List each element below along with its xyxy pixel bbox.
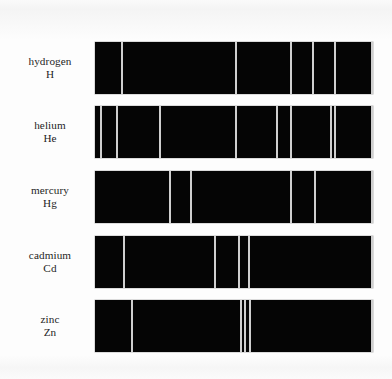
- spectral-line-hydrogen-5: [334, 42, 336, 94]
- spectral-line-helium-3: [159, 106, 161, 158]
- element-symbol: Cd: [43, 262, 56, 275]
- spectral-line-hydrogen-3: [290, 42, 292, 94]
- spectrum-band-helium: [95, 106, 373, 158]
- spectral-line-mercury-4: [314, 171, 316, 223]
- element-label-helium: heliumHe: [10, 106, 90, 158]
- spectral-line-helium-7: [330, 106, 332, 158]
- spectral-line-zinc-4: [249, 300, 251, 352]
- spectral-line-zinc-5: [371, 300, 373, 352]
- element-symbol: H: [46, 68, 54, 81]
- element-label-cadmium: cadmiumCd: [10, 236, 90, 288]
- spectrum-row-hydrogen: hydrogenH: [0, 42, 392, 94]
- spectral-line-hydrogen-2: [235, 42, 237, 94]
- spectral-line-cadmium-3: [238, 236, 240, 288]
- element-symbol: He: [43, 132, 56, 145]
- element-name: cadmium: [29, 249, 71, 262]
- spectral-line-mercury-3: [290, 171, 292, 223]
- spectral-line-zinc-1: [131, 300, 133, 352]
- element-symbol: Hg: [43, 197, 57, 210]
- spectral-line-cadmium-5: [371, 236, 373, 288]
- element-symbol: Zn: [44, 326, 57, 339]
- element-label-zinc: zincZn: [10, 300, 90, 352]
- element-name: helium: [34, 119, 66, 132]
- spectrum-band-mercury: [95, 171, 373, 223]
- spectrum-row-zinc: zincZn: [0, 300, 392, 352]
- spectral-line-cadmium-4: [248, 236, 250, 288]
- spectral-line-helium-5: [276, 106, 278, 158]
- spectral-line-mercury-1: [169, 171, 171, 223]
- spectrum-band-cadmium: [95, 236, 373, 288]
- spectral-line-helium-6: [290, 106, 292, 158]
- spectrum-row-mercury: mercuryHg: [0, 171, 392, 223]
- spectrum-band-zinc: [95, 300, 373, 352]
- element-label-mercury: mercuryHg: [10, 171, 90, 223]
- spectral-line-zinc-3: [244, 300, 246, 352]
- element-name: zinc: [40, 313, 59, 326]
- spectrum-row-cadmium: cadmiumCd: [0, 236, 392, 288]
- element-label-hydrogen: hydrogenH: [10, 42, 90, 94]
- spectral-line-cadmium-2: [214, 236, 216, 288]
- spectral-line-hydrogen-4: [312, 42, 314, 94]
- spectral-line-zinc-2: [240, 300, 242, 352]
- spectral-line-helium-8: [334, 106, 336, 158]
- spectral-line-cadmium-1: [123, 236, 125, 288]
- spectrum-band-hydrogen: [95, 42, 373, 94]
- spectral-line-mercury-5: [371, 171, 373, 223]
- spectral-line-helium-9: [371, 106, 373, 158]
- element-name: mercury: [31, 184, 69, 197]
- spectral-line-helium-2: [116, 106, 118, 158]
- emission-spectra-figure: hydrogenHheliumHemercuryHgcadmiumCdzincZ…: [0, 0, 392, 379]
- spectral-line-hydrogen-1: [121, 42, 123, 94]
- spectral-line-helium-4: [235, 106, 236, 158]
- element-name: hydrogen: [28, 55, 71, 68]
- spectrum-row-helium: heliumHe: [0, 106, 392, 158]
- spectral-line-mercury-2: [190, 171, 192, 223]
- spectral-line-hydrogen-6: [371, 42, 373, 94]
- spectral-line-helium-1: [100, 106, 102, 158]
